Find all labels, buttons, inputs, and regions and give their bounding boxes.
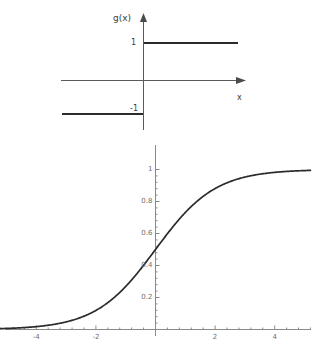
y-axis-tick-label: 0.2 — [136, 294, 153, 301]
x-axis-tick-label: -4 — [26, 334, 46, 341]
step-function-plot-svg — [0, 0, 331, 130]
y-axis-tick-label: 0.8 — [136, 198, 153, 205]
x-axis-arrowhead-icon — [236, 77, 246, 84]
y-axis-tick-label: 1 — [136, 166, 153, 173]
x-axis-group — [61, 77, 246, 84]
sigmoid-function-chart: 0.20.40.60.81 -4-224 — [0, 125, 331, 354]
y-axis-group — [140, 13, 147, 130]
y-axis-arrowhead-icon — [140, 13, 147, 22]
y-value-label-one: 1 — [131, 39, 136, 47]
x-axis-tick-label: 2 — [205, 334, 225, 341]
y-axis-tick-label: 0.6 — [136, 230, 153, 237]
x-axis-title: x — [237, 94, 242, 102]
sigmoid-plot-svg — [0, 125, 331, 354]
x-axis-tick-label: -2 — [86, 334, 106, 341]
y-axis-tick-label: 0.4 — [136, 262, 153, 269]
y-axis-title: g(x) — [113, 14, 131, 23]
y-value-label-negative-one: -1 — [130, 105, 138, 113]
step-function-chart: g(x) x 1 -1 — [0, 0, 331, 130]
x-axis-tick-label: 4 — [265, 334, 285, 341]
math-figure: g(x) x 1 -1 0.20.40.60.81 -4-224 — [0, 0, 331, 354]
